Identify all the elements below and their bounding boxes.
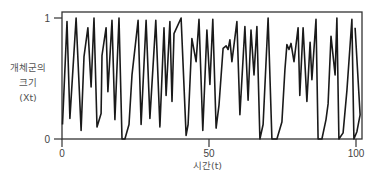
x-tick-label: 100 [348, 148, 365, 159]
x-axis-label: 시간(t) [180, 158, 235, 172]
y-tick-label: 1 [44, 13, 50, 24]
y-tick-label: 0 [44, 134, 50, 145]
y-axis-label: 개체군의 크기 (Xt) [0, 60, 56, 105]
y-axis-label-line-3: (Xt) [0, 90, 56, 105]
y-axis-label-line-2: 크기 [0, 75, 56, 90]
y-axis-label-line-1: 개체군의 [0, 60, 56, 75]
x-axis-ticks: 050100 [59, 139, 365, 159]
x-tick-label: 0 [59, 148, 65, 159]
population-line [63, 18, 361, 139]
